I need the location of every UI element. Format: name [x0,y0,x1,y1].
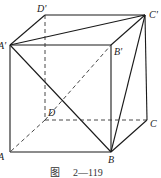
edge-b-c [111,120,147,152]
figure-caption-number: 2—119 [73,167,103,178]
label-d: D [47,107,56,118]
diagonal-a1-c1 [10,15,145,45]
edge-b1-c1 [111,15,145,45]
figure-caption-prefix: 图 [50,167,60,178]
label-b-prime: B' [114,46,123,57]
edge-c1-c [145,15,147,120]
label-c-prime: C' [149,9,159,20]
label-a: A [0,151,5,162]
diagonal-b-c1 [111,15,145,152]
label-d-prime: D' [36,3,47,14]
edge-d1-a1 [10,15,45,45]
label-a-prime: A' [0,40,7,51]
hidden-edge-d-a [10,120,45,152]
label-c: C [150,118,157,129]
label-b: B [108,154,114,165]
cube-diagram: D' C' A' B' D C A B 图 2—119 [0,0,161,178]
diagonal-a1-b [10,45,111,152]
